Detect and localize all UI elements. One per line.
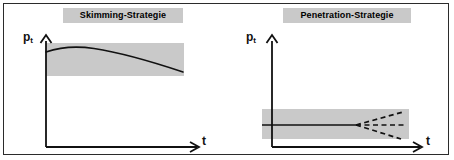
y-axis-subscript-skimming: t	[30, 36, 33, 45]
y-axis-label-penetration: pt	[246, 30, 256, 45]
panel-penetration: Penetration-Strategie pt t	[228, 4, 450, 156]
x-axis-label-skimming: t	[202, 134, 206, 148]
price-curve-skimming	[46, 47, 183, 72]
scenario-dashed-falling-penetration	[356, 125, 401, 139]
chart-penetration	[228, 4, 450, 156]
figure-root: Skimming-Strategie pt t Penetration-Stra…	[0, 0, 454, 160]
chart-skimming	[4, 4, 228, 156]
figure-border: Skimming-Strategie pt t Penetration-Stra…	[3, 3, 449, 155]
x-axis-label-penetration: t	[426, 134, 430, 148]
y-axis-label-skimming: pt	[23, 30, 33, 45]
y-axis-subscript-penetration: t	[253, 36, 256, 45]
panel-skimming: Skimming-Strategie pt t	[4, 4, 228, 156]
scenario-dashed-rising-penetration	[356, 112, 403, 125]
